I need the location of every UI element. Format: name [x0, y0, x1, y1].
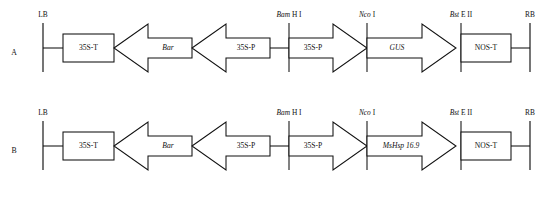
element-label-nost-b: NOS-T: [475, 141, 498, 150]
element-arrow-bar-b: [114, 122, 192, 170]
site-suffix-nco-b: I: [371, 108, 376, 117]
element-label-35sp-right-b: 35S-P: [304, 141, 323, 150]
element-label-35sp-left-b: 35S-P: [237, 141, 256, 150]
element-arrow-35sp-right-b: [289, 122, 367, 170]
construct-row-a: A LB 35S-T Bar 35S-P Bam H I 35S-P Nco: [11, 10, 535, 72]
right-border-label-b: RB: [525, 108, 535, 117]
element-arrow-gus-a: [367, 24, 456, 72]
site-suffix-bst-b: E II: [459, 108, 473, 117]
site-enzyme-nco-a: Nco: [358, 10, 371, 19]
site-enzyme-bam-b: Bam: [276, 108, 290, 117]
element-label-mshsp-b: MsHsp 16.9: [382, 141, 420, 150]
site-suffix-bst-a: E II: [459, 10, 473, 19]
gene-construct-figure: A LB 35S-T Bar 35S-P Bam H I 35S-P Nco: [0, 0, 550, 198]
site-label-bam-hi-a: Bam H I: [276, 10, 302, 19]
site-enzyme-bam-a: Bam: [276, 10, 290, 19]
element-label-35sp-right-a: 35S-P: [304, 43, 323, 52]
element-label-nost-a: NOS-T: [475, 43, 498, 52]
element-label-gus-a: GUS: [390, 43, 405, 52]
element-label-35st-b: 35S-T: [79, 141, 98, 150]
site-enzyme-nco-b: Nco: [358, 108, 371, 117]
site-suffix-nco-a: I: [371, 10, 376, 19]
element-label-35st-a: 35S-T: [79, 43, 98, 52]
element-label-bar-a: Bar: [162, 43, 173, 52]
element-arrow-35sp-left-b: [192, 122, 270, 170]
element-arrow-bar-a: [114, 24, 192, 72]
site-label-nco-i-a: Nco I: [358, 10, 376, 19]
left-border-label-a: LB: [38, 10, 48, 19]
element-label-35sp-left-a: 35S-P: [237, 43, 256, 52]
construct-diagram: A LB 35S-T Bar 35S-P Bam H I 35S-P Nco: [0, 0, 550, 198]
site-label-nco-i-b: Nco I: [358, 108, 376, 117]
site-label-bst-eii-a: Bst E II: [450, 10, 473, 19]
element-arrow-35sp-left-a: [192, 24, 270, 72]
site-suffix-bam-a: H I: [290, 10, 302, 19]
left-border-label-b: LB: [38, 108, 48, 117]
right-border-label-a: RB: [525, 10, 535, 19]
site-label-bst-eii-b: Bst E II: [450, 108, 473, 117]
row-label-b: B: [11, 146, 16, 155]
element-arrow-35sp-right-a: [289, 24, 367, 72]
construct-row-b: B LB 35S-T Bar 35S-P Bam H I 35S-P Nco: [11, 108, 535, 170]
element-label-bar-b: Bar: [162, 141, 173, 150]
site-label-bam-hi-b: Bam H I: [276, 108, 302, 117]
row-label-a: A: [11, 48, 17, 57]
site-suffix-bam-b: H I: [290, 108, 302, 117]
